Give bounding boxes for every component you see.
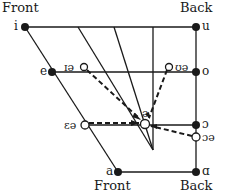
symbol-ie: ɪə <box>64 62 74 73</box>
symbol-open-o: ɔ <box>202 119 209 130</box>
point-i <box>21 23 29 31</box>
point-open-o <box>192 121 200 129</box>
point-o <box>192 68 200 76</box>
label-front-bottom: Front <box>94 179 131 192</box>
point-schwa <box>141 120 150 129</box>
point-script-a <box>192 168 200 176</box>
point-e <box>48 68 56 76</box>
symbol-o: o <box>202 66 209 77</box>
symbol-a: a <box>106 166 113 177</box>
point-u <box>192 23 200 31</box>
symbol-e: e <box>40 66 47 77</box>
glide-ie <box>87 70 140 119</box>
symbol-ee: ɛə <box>64 120 76 131</box>
point-ie <box>81 64 88 71</box>
glide-ue <box>149 70 167 118</box>
symbol-oe: ɔə <box>202 132 215 143</box>
symbol-u: u <box>202 21 210 32</box>
chart-frame <box>25 27 196 172</box>
front-line <box>25 27 118 172</box>
symbol-ue: ʊə <box>175 62 188 73</box>
central-line-2 <box>114 27 153 150</box>
cardinal-points <box>21 23 200 176</box>
point-oe <box>192 133 200 141</box>
point-ue <box>166 64 173 71</box>
glide-arrows <box>87 70 192 136</box>
symbol-i: i <box>14 21 18 32</box>
central-line-1 <box>78 27 153 150</box>
symbol-script-a: ɑ <box>202 166 210 177</box>
vowel-chart <box>0 0 226 194</box>
glide-oe <box>151 126 192 136</box>
label-front-top: Front <box>2 1 39 14</box>
point-ee <box>81 121 89 129</box>
point-a <box>114 168 122 176</box>
symbol-schwa: ə <box>142 108 149 119</box>
label-back-bottom: Back <box>180 179 212 192</box>
label-back-top: Back <box>180 1 212 14</box>
